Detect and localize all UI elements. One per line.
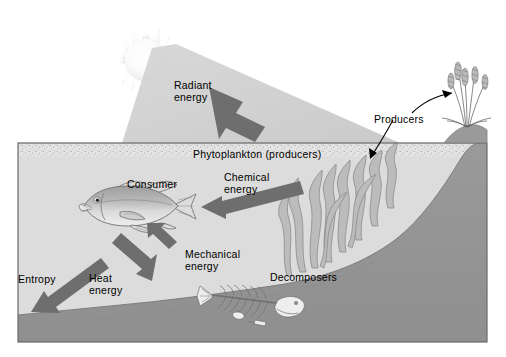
label-decomposers: Decomposers — [270, 271, 337, 283]
label-consumer: Consumer — [127, 178, 177, 190]
label-chemical-energy: Chemical energy — [224, 171, 269, 195]
shore — [444, 125, 487, 143]
label-radiant-energy: Radiant energy — [174, 79, 212, 103]
label-phytoplankton: Phytoplankton (producers) — [193, 148, 321, 160]
label-entropy: Entropy — [18, 273, 56, 285]
label-mechanical-energy: Mechanical energy — [185, 248, 240, 272]
pointer-producers-grass-icon — [412, 90, 452, 113]
label-heat-energy: Heat energy — [89, 272, 122, 296]
ecosystem-energy-diagram: Radiant energy Producers Phytoplankton (… — [0, 0, 506, 357]
label-producers: Producers — [374, 113, 424, 125]
